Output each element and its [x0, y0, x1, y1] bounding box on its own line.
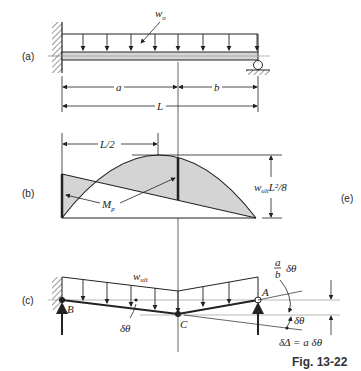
dimension-b: b — [179, 81, 257, 93]
roller-support — [254, 61, 263, 70]
svg-text:a: a — [116, 81, 122, 93]
svg-text:L: L — [156, 100, 163, 112]
hinge-B — [59, 297, 65, 303]
panel-a-label: (a) — [22, 51, 34, 62]
svg-text:B: B — [67, 303, 74, 315]
fixed-support-wall — [52, 22, 62, 73]
dimension-L: L — [63, 100, 257, 112]
svg-text:A: A — [261, 286, 269, 298]
fixed-support-wall-c — [52, 277, 62, 310]
hinge-C — [175, 311, 181, 317]
rotation-left: δθ — [120, 322, 131, 334]
distributed-load-arrows — [83, 34, 257, 50]
svg-text:L/2: L/2 — [99, 138, 115, 150]
svg-text:δθ: δθ — [286, 262, 297, 274]
max-moment-label: wultL²/8 — [254, 181, 287, 195]
panel-e-label: (e) — [341, 193, 353, 204]
svg-text:a: a — [275, 256, 281, 268]
panel-c-label: (c) — [22, 295, 34, 306]
load-label-wult: wult — [133, 270, 149, 284]
panel-b-label: (b) — [22, 188, 34, 199]
dimension-half-span: L/2 — [63, 138, 157, 150]
panel-c: (c) wult B C A δθ — [22, 256, 340, 348]
dimension-max-moment: wultL²/8 — [254, 156, 287, 217]
load-label-wo: wo — [155, 7, 166, 22]
svg-text:b: b — [275, 268, 281, 280]
panel-b: (b) L/2 wultL²/8 Mp — [22, 133, 287, 218]
panel-a: (a) wo a — [22, 7, 270, 112]
ultimate-load-arrows — [83, 280, 229, 312]
deflection-label: δΔ = a δθ — [279, 336, 323, 348]
svg-text:C: C — [180, 318, 188, 330]
beam-mechanism-figure: (a) wo a — [0, 0, 361, 371]
dimension-a: a — [63, 81, 177, 93]
svg-text:b: b — [214, 81, 220, 93]
figure-caption: Fig. 13-22 — [292, 355, 348, 369]
rotation-right: δθ — [294, 314, 305, 326]
